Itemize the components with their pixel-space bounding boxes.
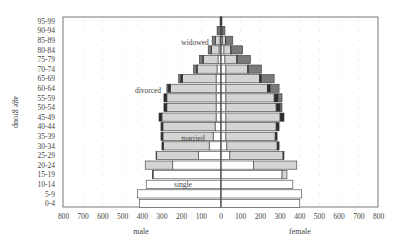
- bar-female-widowed: [278, 94, 282, 102]
- grid-dot: [122, 107, 123, 108]
- grid-dot: [299, 117, 300, 118]
- grid-dot: [102, 136, 103, 137]
- bar-male-single: [216, 113, 221, 121]
- grid-dot: [122, 184, 123, 185]
- grid-dot: [122, 97, 123, 98]
- grid-dot: [358, 184, 359, 185]
- grid-dot: [83, 78, 84, 79]
- bar-male-married: [163, 123, 215, 131]
- grid-dot: [122, 165, 123, 166]
- grid-dot: [358, 97, 359, 98]
- bar-female-single: [221, 142, 227, 150]
- grid-dot: [161, 49, 162, 50]
- grid-dot: [299, 165, 300, 166]
- y-tick-label: 60-64: [38, 84, 56, 93]
- grid-dot: [122, 155, 123, 156]
- grid-dot: [102, 193, 103, 194]
- bar-female-widowed: [221, 17, 222, 25]
- bar-female-married: [225, 55, 237, 63]
- bar-male-married: [167, 94, 216, 102]
- bar-male-married: [203, 55, 218, 63]
- bar-female-widowed: [237, 55, 250, 63]
- grid-dot: [319, 78, 320, 79]
- grid-dot: [161, 30, 162, 31]
- bar-male-widowed: [217, 27, 219, 35]
- grid-dot: [142, 78, 143, 79]
- grid-dot: [319, 97, 320, 98]
- bar-male-single: [209, 142, 221, 150]
- bar-male-married: [197, 65, 217, 73]
- bar-female-single: [221, 94, 226, 102]
- y-tick-label: 25-29: [38, 151, 56, 160]
- bar-female-divorced: [267, 84, 270, 92]
- x-tick-label: 500: [117, 212, 129, 221]
- grid-dot: [339, 69, 340, 70]
- bar-male-divorced: [152, 171, 153, 179]
- grid-dot: [339, 49, 340, 50]
- grid-dot: [299, 174, 300, 175]
- bar-female-divorced: [275, 132, 277, 140]
- bar-female-widowed: [270, 84, 279, 92]
- bar-female-married: [226, 103, 276, 111]
- grid-dot: [299, 30, 300, 31]
- grid-dot: [280, 49, 281, 50]
- annotation-married: married: [181, 134, 205, 143]
- grid-dot: [142, 30, 143, 31]
- grid-dot: [83, 21, 84, 22]
- grid-dot: [280, 145, 281, 146]
- bar-female-single: [221, 171, 282, 179]
- grid-dot: [83, 59, 84, 60]
- grid-dot: [280, 136, 281, 137]
- grid-dot: [260, 21, 261, 22]
- grid-dot: [358, 145, 359, 146]
- population-pyramid-chart: 0-45-910-1415-1920-2425-2930-3435-3940-4…: [0, 0, 401, 248]
- grid-dot: [319, 174, 320, 175]
- grid-dot: [102, 174, 103, 175]
- bar-female-divorced: [274, 94, 278, 102]
- grid-dot: [102, 59, 103, 60]
- bar-female-single: [221, 132, 226, 140]
- grid-dot: [83, 40, 84, 41]
- grid-dot: [299, 184, 300, 185]
- grid-dot: [83, 155, 84, 156]
- grid-dot: [122, 117, 123, 118]
- grid-dot: [142, 21, 143, 22]
- bar-male-single: [216, 103, 221, 111]
- grid-dot: [122, 145, 123, 146]
- y-axis-label: age group: [12, 96, 21, 128]
- bar-male-single: [139, 199, 221, 207]
- annotation-divorced: divorced: [135, 86, 161, 95]
- bar-female-single: [221, 75, 226, 83]
- grid-dot: [319, 30, 320, 31]
- y-tick-label: 35-39: [38, 132, 56, 141]
- grid-dot: [181, 21, 182, 22]
- bar-female-widowed: [280, 103, 282, 111]
- bar-female-married: [223, 36, 226, 44]
- grid-dot: [142, 107, 143, 108]
- x-tick-label: 300: [156, 212, 168, 221]
- grid-dot: [181, 69, 182, 70]
- grid-dot: [339, 117, 340, 118]
- grid-dot: [339, 21, 340, 22]
- grid-dot: [339, 155, 340, 156]
- grid-dot: [319, 49, 320, 50]
- grid-dot: [83, 136, 84, 137]
- grid-dot: [201, 21, 202, 22]
- grid-dot: [358, 30, 359, 31]
- bar-female-divorced: [276, 103, 280, 111]
- y-tick-label: 55-59: [38, 94, 56, 103]
- x-axis-label-male: male: [133, 227, 149, 236]
- grid-dot: [122, 136, 123, 137]
- bar-male-divorced: [159, 113, 162, 121]
- bar-male-widowed: [193, 65, 196, 73]
- grid-dot: [260, 40, 261, 41]
- grid-dot: [280, 21, 281, 22]
- bar-male-married: [157, 151, 199, 159]
- grid-dot: [319, 165, 320, 166]
- bar-male-divorced: [164, 94, 167, 102]
- bar-female-widowed: [226, 36, 233, 44]
- bar-male-divorced: [162, 142, 164, 150]
- grid-dot: [102, 69, 103, 70]
- grid-dot: [83, 30, 84, 31]
- grid-dot: [102, 49, 103, 50]
